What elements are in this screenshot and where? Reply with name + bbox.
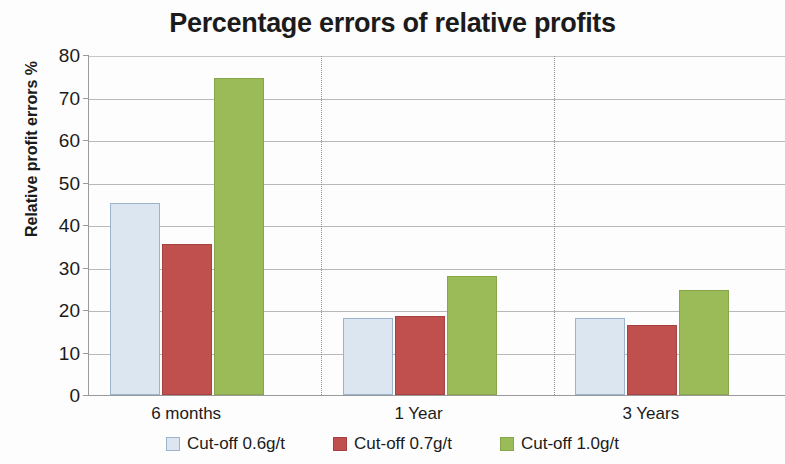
y-tick-mark-60 [83,140,89,141]
bar-3-years-series-1 [575,318,625,395]
y-tick-mark-10 [83,353,89,354]
y-tick-label-80: 80 [59,45,80,67]
y-tick-label-70: 70 [59,88,80,110]
plot-area: 01020304050607080 [88,56,785,396]
category-separator-2 [554,56,555,395]
legend-label-3: Cut-off 1.0g/t [521,434,619,454]
y-tick-mark-70 [83,98,89,99]
x-axis-label-6-months: 6 months [151,404,221,424]
y-tick-mark-20 [83,310,89,311]
y-tick-label-10: 10 [59,343,80,365]
gridline-40 [89,226,785,227]
legend-item-2[interactable]: Cut-off 0.7g/t [333,434,452,454]
chart-title: Percentage errors of relative profits [0,8,785,39]
y-tick-mark-40 [83,225,89,226]
y-tick-mark-50 [83,183,89,184]
y-tick-label-20: 20 [59,300,80,322]
y-tick-mark-0 [83,395,89,396]
bar-6-months-series-3 [214,78,264,395]
legend-swatch-icon-2 [333,437,347,451]
bar-6-months-series-2 [162,244,212,395]
gridline-70 [89,99,785,100]
y-tick-label-40: 40 [59,215,80,237]
y-tick-label-30: 30 [59,258,80,280]
bar-chart: Percentage errors of relative profits Re… [0,0,785,464]
legend-item-3[interactable]: Cut-off 1.0g/t [500,434,619,454]
legend-swatch-icon-1 [166,437,180,451]
legend-swatch-icon-3 [500,437,514,451]
legend-item-1[interactable]: Cut-off 0.6g/t [166,434,285,454]
bar-1-year-series-1 [343,318,393,395]
bar-1-year-series-3 [447,276,497,395]
bar-3-years-series-3 [679,290,729,395]
chart-legend: Cut-off 0.6g/tCut-off 0.7g/tCut-off 1.0g… [0,434,785,454]
category-separator-1 [321,56,322,395]
y-tick-label-50: 50 [59,173,80,195]
y-tick-mark-30 [83,268,89,269]
x-axis-label-1-year: 1 Year [394,404,442,424]
gridline-80 [89,56,785,57]
bar-3-years-series-2 [627,325,677,395]
y-axis-title: Relative profit errors % [23,29,41,269]
y-tick-mark-80 [83,55,89,56]
y-tick-label-0: 0 [69,385,80,407]
y-tick-label-60: 60 [59,130,80,152]
bar-6-months-series-1 [110,203,160,395]
gridline-60 [89,141,785,142]
x-axis-label-3-years: 3 Years [622,404,679,424]
legend-label-1: Cut-off 0.6g/t [187,434,285,454]
legend-label-2: Cut-off 0.7g/t [354,434,452,454]
gridline-50 [89,184,785,185]
bar-1-year-series-2 [395,316,445,395]
